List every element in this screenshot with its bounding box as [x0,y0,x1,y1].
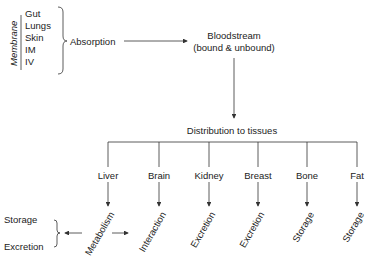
bloodstream-label: Bloodstream [207,30,260,41]
tissue-kidney: Kidney [194,170,223,181]
route-gut: Gut [25,8,40,19]
route-iv: IV [25,56,34,67]
absorption-label: Absorption [70,36,115,47]
bloodstream-sublabel: (bound & unbound) [193,42,274,53]
route-lungs: Lungs [25,20,51,31]
membrane-label: Membrane [8,21,19,66]
tissue-fat: Fat [350,170,364,181]
tissue-bone: Bone [296,170,318,181]
distribution-label: Distribution to tissues [187,125,277,136]
tissue-breast: Breast [244,170,271,181]
diagram-connectors [0,0,371,264]
metabolism-excretion: Excretion [4,241,44,252]
metabolism-storage: Storage [4,214,37,225]
route-skin: Skin [25,32,43,43]
tissue-brain: Brain [148,170,170,181]
tissue-liver: Liver [98,170,119,181]
route-im: IM [25,44,36,55]
